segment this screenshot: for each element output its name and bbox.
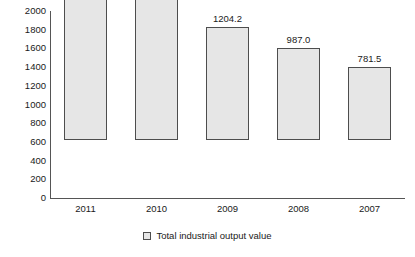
x-axis-tick-label: 2010	[121, 203, 192, 215]
bar[interactable]	[277, 48, 320, 140]
y-axis-tick-label: 200	[2, 174, 46, 184]
y-axis-tick-label: 1000	[2, 100, 46, 110]
y-axis-tick-label: 1200	[2, 81, 46, 91]
legend-item-label: Total industrial output value	[156, 231, 271, 241]
legend-item-total-industrial-output-value: Total industrial output value	[143, 231, 271, 241]
bar-value-label: 987.0	[263, 35, 334, 45]
x-axis-tick-label: 2011	[50, 203, 121, 215]
x-axis-tick-label: 2008	[263, 203, 334, 215]
y-axis-tick-label: 1800	[2, 25, 46, 35]
bar[interactable]	[64, 0, 107, 140]
bar[interactable]	[206, 27, 249, 140]
y-axis-tick-labels: 2000180016001400120010008006004002000	[0, 0, 46, 257]
bar-value-label: 1204.2	[192, 14, 263, 24]
x-axis-tick-labels: 20112010200920082007	[50, 203, 405, 219]
y-axis-tick-label: 0	[2, 193, 46, 203]
y-axis-tick-label: 1400	[2, 62, 46, 72]
y-axis-tick-label: 600	[2, 137, 46, 147]
bar-value-label: 781.5	[334, 54, 405, 64]
bar-chart: 2000180016001400120010008006004002000 18…	[0, 0, 415, 257]
y-axis-tick-label: 1600	[2, 43, 46, 53]
y-axis-tick-label: 2000	[2, 6, 46, 16]
chart-legend: Total industrial output value	[0, 231, 415, 241]
x-axis-tick-label: 2009	[192, 203, 263, 215]
legend-swatch-square-icon	[143, 232, 151, 240]
y-axis-tick-label: 800	[2, 118, 46, 128]
bar-series-total-industrial-output-value: 18731527.71204.2987.0781.5	[50, 0, 405, 199]
y-axis-tick-label: 400	[2, 156, 46, 166]
bar[interactable]	[135, 0, 178, 140]
x-axis-tick-label: 2007	[334, 203, 405, 215]
bar[interactable]	[348, 67, 391, 140]
